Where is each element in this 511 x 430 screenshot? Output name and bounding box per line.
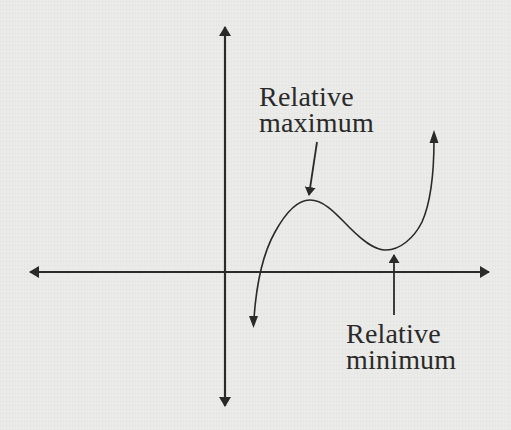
curve-start-arrow-icon — [249, 316, 258, 328]
relative-minimum-label-line2: minimum — [346, 347, 456, 373]
curve-end-arrow-icon — [430, 130, 439, 143]
function-curve — [254, 140, 434, 318]
max-pointer-arrow-icon — [309, 142, 317, 195]
relative-maximum-label-line2: maximum — [259, 110, 374, 136]
relative-maximum-label: Relative maximum — [259, 84, 374, 136]
relative-minimum-label: Relative minimum — [346, 321, 456, 373]
